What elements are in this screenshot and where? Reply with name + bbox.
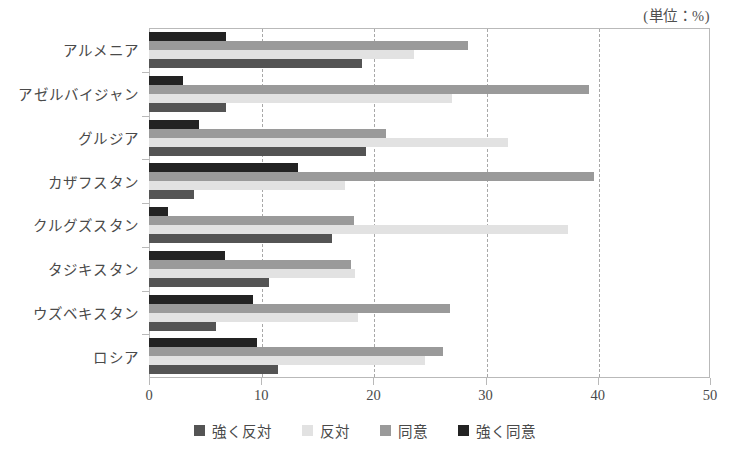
bar-group xyxy=(149,72,710,116)
y-axis-label: カザフスタン xyxy=(48,159,139,203)
bar xyxy=(149,347,443,356)
bar xyxy=(149,85,589,94)
bar xyxy=(149,295,253,304)
y-axis-label: タジキスタン xyxy=(48,247,139,291)
legend-label: 同意 xyxy=(398,420,428,441)
x-axis-tick-label: 0 xyxy=(145,387,152,404)
y-axis-tick xyxy=(142,291,149,292)
bar xyxy=(149,365,278,374)
bar-group xyxy=(149,291,710,335)
legend-item[interactable]: 強く同意 xyxy=(458,420,536,441)
y-axis-label: アルメニア xyxy=(63,28,139,72)
bar xyxy=(149,207,168,216)
x-axis-tick xyxy=(373,378,374,385)
x-axis-tick xyxy=(598,378,599,385)
bar xyxy=(149,356,425,365)
y-axis-label: ロシア xyxy=(93,334,139,378)
bar-group xyxy=(149,203,710,247)
legend-label: 強く反対 xyxy=(212,420,272,441)
y-axis-tick xyxy=(142,159,149,160)
legend-swatch-icon xyxy=(458,425,469,436)
bar-group xyxy=(149,247,710,291)
y-axis-label: クルグズスタン xyxy=(33,203,139,247)
x-axis-tick-label: 20 xyxy=(366,387,381,404)
bar xyxy=(149,172,594,181)
bar xyxy=(149,251,225,260)
bar xyxy=(149,163,298,172)
y-axis-tick xyxy=(142,247,149,248)
x-axis-tick xyxy=(486,378,487,385)
bar xyxy=(149,120,199,129)
bar xyxy=(149,181,345,190)
bar xyxy=(149,278,269,287)
legend-swatch-icon xyxy=(302,425,313,436)
bar xyxy=(149,234,332,243)
x-axis-tick xyxy=(149,378,150,385)
y-axis-label: ウズベキスタン xyxy=(33,291,139,335)
legend-label: 強く同意 xyxy=(476,420,536,441)
bar-group xyxy=(149,116,710,160)
bar xyxy=(149,225,568,234)
bar xyxy=(149,59,362,68)
y-axis-tick xyxy=(142,334,149,335)
legend-swatch-icon xyxy=(380,425,391,436)
bar xyxy=(149,50,414,59)
bar xyxy=(149,103,226,112)
bar xyxy=(149,313,358,322)
bar xyxy=(149,190,194,199)
bar xyxy=(149,260,351,269)
x-axis-tick-label: 10 xyxy=(254,387,269,404)
bar xyxy=(149,216,354,225)
x-axis-tick-label: 40 xyxy=(591,387,606,404)
bar xyxy=(149,147,366,156)
bar-chart: (単位：%) アルメニアアゼルバイジャングルジアカザフスタンクルグズスタンタジキ… xyxy=(0,0,730,461)
legend-item[interactable]: 同意 xyxy=(380,420,428,441)
y-axis-tick xyxy=(142,116,149,117)
y-axis-tick xyxy=(142,72,149,73)
x-axis-tick xyxy=(261,378,262,385)
bar xyxy=(149,41,468,50)
legend-item[interactable]: 強く反対 xyxy=(194,420,272,441)
y-axis-tick xyxy=(142,203,149,204)
y-axis: アルメニアアゼルバイジャングルジアカザフスタンクルグズスタンタジキスタンウズベキ… xyxy=(0,28,149,378)
bar xyxy=(149,338,257,347)
unit-caption: (単位：%) xyxy=(643,4,710,25)
x-axis-tick-label: 50 xyxy=(703,387,718,404)
x-axis-tick-label: 30 xyxy=(478,387,493,404)
bar xyxy=(149,269,355,278)
y-axis-label: アゼルバイジャン xyxy=(18,72,139,116)
bar-group xyxy=(149,159,710,203)
bar xyxy=(149,94,452,103)
x-axis: 01020304050 xyxy=(149,378,710,412)
legend-swatch-icon xyxy=(194,425,205,436)
bar-group xyxy=(149,28,710,72)
legend-label: 反対 xyxy=(320,420,350,441)
x-axis-tick xyxy=(710,378,711,385)
bar xyxy=(149,129,386,138)
y-axis-label: グルジア xyxy=(78,116,139,160)
chart-legend: 強く反対反対同意強く同意 xyxy=(0,420,730,441)
bar xyxy=(149,138,508,147)
bar-group xyxy=(149,334,710,378)
bar xyxy=(149,322,216,331)
legend-item[interactable]: 反対 xyxy=(302,420,350,441)
bars-layer xyxy=(149,28,710,378)
bar xyxy=(149,76,183,85)
bar xyxy=(149,304,450,313)
bar xyxy=(149,32,226,41)
